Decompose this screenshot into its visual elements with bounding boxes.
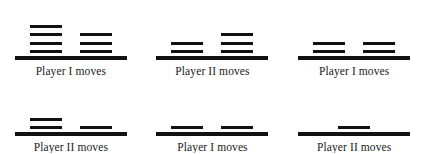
nim-position-4: Player II moves bbox=[0, 77, 142, 153]
table-rule bbox=[298, 132, 410, 136]
table-rule bbox=[15, 56, 127, 60]
nim-position-3: Player I moves bbox=[283, 0, 425, 77]
position-caption: Player II moves bbox=[317, 142, 391, 154]
matchstick bbox=[30, 33, 62, 36]
heap-2 bbox=[80, 126, 112, 129]
heap-1 bbox=[171, 42, 203, 54]
nim-position-6: Player II moves bbox=[283, 77, 425, 153]
heap-group bbox=[313, 9, 395, 53]
position-caption: Player II moves bbox=[34, 142, 108, 154]
matchstick bbox=[363, 50, 395, 53]
table-rule bbox=[156, 132, 268, 136]
heap-group bbox=[30, 9, 112, 53]
matchstick bbox=[221, 50, 253, 53]
matchstick bbox=[80, 126, 112, 129]
matchstick bbox=[30, 42, 62, 45]
nim-position-5: Player I moves bbox=[142, 77, 284, 153]
heap-2 bbox=[221, 126, 253, 129]
position-caption: Player I moves bbox=[177, 142, 247, 154]
position-caption: Player I moves bbox=[319, 66, 389, 78]
matchstick bbox=[338, 126, 370, 129]
position-caption: Player I moves bbox=[36, 66, 106, 78]
heap-2 bbox=[221, 33, 253, 53]
matchstick bbox=[80, 50, 112, 53]
matchstick bbox=[313, 42, 345, 45]
heap-1 bbox=[338, 126, 370, 129]
heap-1 bbox=[30, 25, 62, 54]
heap-1 bbox=[171, 126, 203, 129]
nim-positions-board: Player I moves Player II moves bbox=[0, 0, 425, 153]
heap-1 bbox=[30, 118, 62, 130]
nim-position-1: Player I moves bbox=[0, 0, 142, 77]
matchstick bbox=[30, 25, 62, 28]
matchstick bbox=[221, 126, 253, 129]
heap-group bbox=[171, 9, 253, 53]
heap-group bbox=[171, 95, 253, 129]
heap-group bbox=[30, 95, 112, 129]
nim-position-2: Player II moves bbox=[142, 0, 284, 77]
matchstick bbox=[30, 50, 62, 53]
matchstick bbox=[171, 50, 203, 53]
matchstick bbox=[363, 42, 395, 45]
table-rule bbox=[15, 132, 127, 136]
table-rule bbox=[298, 56, 410, 60]
matchstick bbox=[171, 126, 203, 129]
matchstick bbox=[30, 118, 62, 121]
matchstick bbox=[171, 42, 203, 45]
heap-2 bbox=[80, 33, 112, 53]
heap-2 bbox=[363, 42, 395, 54]
matchstick bbox=[221, 33, 253, 36]
matchstick bbox=[313, 50, 345, 53]
position-caption: Player II moves bbox=[175, 66, 249, 78]
matchstick bbox=[221, 42, 253, 45]
heap-group bbox=[338, 95, 370, 129]
matchstick bbox=[80, 42, 112, 45]
matchstick bbox=[80, 33, 112, 36]
heap-1 bbox=[313, 42, 345, 54]
matchstick bbox=[30, 126, 62, 129]
table-rule bbox=[156, 56, 268, 60]
